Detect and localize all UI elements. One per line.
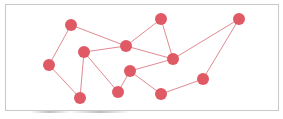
edge-K-L bbox=[161, 79, 203, 94]
edge-A-G bbox=[49, 25, 71, 65]
edge-A-E bbox=[71, 25, 126, 46]
node-D bbox=[78, 46, 90, 58]
node-E bbox=[120, 40, 132, 52]
edge-D-E bbox=[84, 46, 126, 52]
node-G bbox=[43, 59, 55, 71]
edge-B-F bbox=[161, 19, 173, 59]
edge-L-C bbox=[203, 19, 239, 79]
edge-D-I bbox=[80, 52, 84, 98]
node-A bbox=[65, 19, 77, 31]
node-B bbox=[155, 13, 167, 25]
edges-layer bbox=[49, 19, 239, 98]
network-graph bbox=[0, 0, 283, 119]
edge-F-C bbox=[173, 19, 239, 59]
edge-F-H bbox=[130, 59, 173, 71]
edge-G-I bbox=[49, 65, 80, 98]
node-K bbox=[155, 88, 167, 100]
edge-E-B bbox=[126, 19, 161, 46]
node-I bbox=[74, 92, 86, 104]
node-C bbox=[233, 13, 245, 25]
node-J bbox=[112, 86, 124, 98]
edge-D-J bbox=[84, 52, 118, 92]
node-L bbox=[197, 73, 209, 85]
node-F bbox=[167, 53, 179, 65]
edge-E-F bbox=[126, 46, 173, 59]
node-H bbox=[124, 65, 136, 77]
